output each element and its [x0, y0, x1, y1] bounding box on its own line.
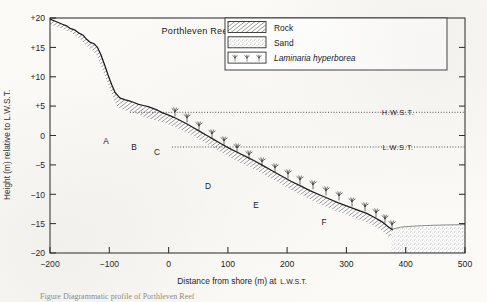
x-tick-label: −100: [100, 259, 120, 269]
y-tick-label: −15: [30, 219, 45, 229]
y-tick-label: +5: [35, 101, 45, 111]
figure-porthleven-reef-profile: Height (m) relative to L.W.S.T.: [0, 0, 487, 302]
y-tick-label: +10: [30, 72, 45, 82]
x-axis-title: Distance from shore (m) atL.W.S.T.: [177, 276, 307, 286]
hwst-label: H.W.S.T.: [382, 108, 414, 117]
x-tick-label: −200: [40, 259, 60, 269]
legend-label-kelp: Laminaria hyperborea: [274, 53, 356, 63]
profile-chart-svg: Height (m) relative to L.W.S.T.: [0, 0, 487, 302]
legend-swatch-rock: [228, 22, 266, 33]
y-tick-label: +20: [30, 13, 45, 23]
sand-body: [391, 225, 465, 253]
y-tick-label: −10: [30, 190, 45, 200]
zone-label-c: C: [154, 147, 160, 157]
legend-label-sand: Sand: [274, 38, 294, 48]
legend-item-rock: Rock: [228, 22, 294, 33]
legend-swatch-sand: [228, 37, 266, 48]
y-axis-right-ticks: [459, 47, 465, 223]
y-tick-label: −20: [30, 248, 45, 258]
chart-title: Porthleven Reef: [162, 26, 231, 36]
x-axis-title-main: Distance from shore (m) at: [177, 276, 277, 286]
legend-item-kelp: Laminaria hyperborea: [228, 52, 356, 63]
x-tick-label: 500: [458, 259, 473, 269]
legend: Rock Sand Laminaria hyperborea: [225, 18, 447, 70]
y-tick-label: −5: [35, 160, 45, 170]
x-tick-label: 100: [221, 259, 236, 269]
x-axis-title-suffix: L.W.S.T.: [280, 278, 306, 286]
x-tick-label: 200: [280, 259, 295, 269]
figure-caption: Figure Diagrammatic profile of Porthleve…: [40, 292, 195, 301]
zone-label-d: D: [205, 181, 211, 191]
y-axis: +20 +15 +10 +5 0 −5 −10 −15 −20: [30, 13, 56, 258]
y-axis-title-text: Height (m) relative to L.W.S.T.: [2, 90, 12, 200]
legend-label-rock: Rock: [274, 23, 294, 33]
y-axis-title: Height (m) relative to L.W.S.T.: [2, 90, 12, 200]
y-tick-label: +15: [30, 43, 45, 53]
lwst-label: L.W.S.T.: [382, 143, 413, 152]
y-tick-label: 0: [40, 131, 45, 141]
x-tick-label: 400: [399, 259, 414, 269]
x-tick-label: 0: [166, 259, 171, 269]
zone-label-b: B: [131, 142, 137, 152]
legend-item-sand: Sand: [228, 37, 294, 48]
zone-label-f: F: [321, 217, 326, 227]
zone-label-a: A: [103, 136, 109, 146]
zone-label-e: E: [253, 200, 259, 210]
x-tick-label: 300: [339, 259, 354, 269]
kelp-symbols: [172, 108, 395, 229]
svg-text:Distance from shore (m) atL.W.: Distance from shore (m) atL.W.S.T.: [177, 276, 307, 286]
